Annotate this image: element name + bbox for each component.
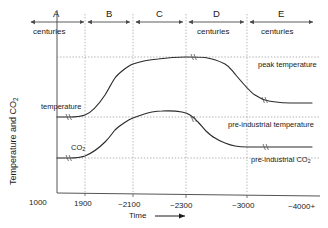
segment-label-b: B — [106, 9, 112, 19]
segment-label-c: C — [156, 9, 163, 19]
annotation-pre-industrial-temperature: pre-industrial temperature — [228, 121, 314, 129]
annotation-peak-temperature: peak temperature — [258, 61, 317, 69]
break-marks — [66, 54, 268, 161]
segment-centuries-a: centuries — [33, 28, 65, 36]
x-tick-label-2: ~2100 — [118, 201, 140, 209]
gridlines-vertical — [85, 14, 247, 193]
chart-figure: Temperature and CO2 — [0, 0, 328, 228]
segment-label-e: E — [278, 9, 284, 19]
series-label-co2: CO2 — [71, 144, 85, 153]
segment-label-a: A — [53, 9, 59, 19]
series-label-temperature: temperature — [41, 103, 81, 111]
x-tick-label-1: 1900 — [74, 200, 92, 208]
annotation-pre-industrial-co2: pre-industrial CO2 — [251, 156, 311, 165]
series-co2-line — [57, 111, 312, 158]
x-tick-label-4: ~3000 — [232, 202, 254, 210]
x-axis-label: Time — [129, 212, 146, 220]
segment-centuries-e: centuries — [261, 28, 293, 36]
segment-centuries-d: centuries — [197, 28, 229, 36]
x-tick-label-0: 1000 — [29, 199, 47, 207]
x-tick-label-5: ~4000+ — [288, 203, 315, 211]
segment-label-d: D — [213, 9, 220, 19]
x-tick-label-3: ~2300 — [170, 202, 192, 210]
reference-lines-horizontal — [57, 57, 320, 158]
